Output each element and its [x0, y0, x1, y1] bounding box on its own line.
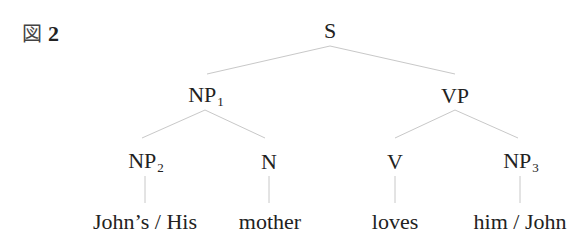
node-n-label: N — [261, 149, 277, 174]
leaf-v: loves — [372, 211, 418, 233]
edge-vp-np3 — [455, 110, 518, 138]
leaf-np2: John’s / His — [93, 211, 197, 233]
node-vp-label: VP — [441, 83, 469, 108]
node-np2-label: NP — [128, 148, 156, 173]
leaf-n: mother — [239, 211, 301, 233]
edge-vp-v — [395, 110, 455, 138]
edge-s-np1 — [207, 46, 330, 74]
node-np1-label: NP — [188, 82, 216, 107]
edge-s-vp — [330, 46, 455, 74]
node-np3-subscript: 3 — [532, 160, 539, 175]
node-np3: NP3 — [503, 150, 539, 174]
edge-np1-n — [205, 110, 265, 138]
leaf-np3: him / John — [474, 211, 567, 233]
node-s-label: S — [324, 18, 336, 43]
node-np2: NP2 — [128, 150, 164, 174]
node-np2-subscript: 2 — [157, 160, 164, 175]
node-np3-label: NP — [503, 148, 531, 173]
node-v-label: V — [387, 149, 403, 174]
node-s: S — [324, 20, 336, 42]
edge-np1-np2 — [142, 110, 205, 138]
node-v: V — [387, 151, 403, 173]
node-np1-subscript: 1 — [217, 94, 224, 109]
node-n: N — [261, 151, 277, 173]
node-np1: NP1 — [188, 84, 224, 108]
node-vp: VP — [441, 85, 469, 107]
